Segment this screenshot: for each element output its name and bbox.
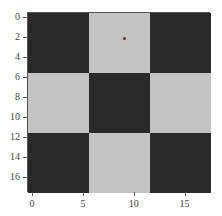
x-tick-label: 10 (124, 198, 144, 209)
y-tick-label: 4 (6, 51, 20, 62)
y-tick-label: 10 (6, 111, 20, 122)
heatmap-block (28, 133, 89, 193)
heatmap-block (150, 133, 211, 193)
y-tick-mark (23, 117, 27, 118)
y-tick-label: 8 (6, 91, 20, 102)
heatmap-block (89, 73, 150, 133)
heatmap-block (89, 13, 150, 73)
x-tick-label: 15 (175, 198, 195, 209)
heatmap-block (150, 13, 211, 73)
y-tick-mark (23, 97, 27, 98)
y-tick-mark (23, 37, 27, 38)
x-tick-mark (185, 192, 186, 196)
y-tick-label: 0 (6, 11, 20, 22)
y-tick-label: 6 (6, 71, 20, 82)
heatmap-block (89, 133, 150, 193)
x-tick-mark (134, 192, 135, 196)
y-tick-mark (23, 17, 27, 18)
y-tick-label: 2 (6, 31, 20, 42)
heatmap-block (28, 13, 89, 73)
heatmap-block (28, 73, 89, 133)
y-tick-mark (23, 77, 27, 78)
x-tick-label: 0 (22, 198, 42, 209)
y-tick-mark (23, 177, 27, 178)
y-tick-label: 14 (6, 151, 20, 162)
y-tick-mark (23, 57, 27, 58)
y-tick-mark (23, 157, 27, 158)
x-tick-label: 5 (73, 198, 93, 209)
heatmap-block (150, 73, 211, 133)
y-tick-label: 16 (6, 171, 20, 182)
x-tick-mark (83, 192, 84, 196)
y-tick-label: 12 (6, 131, 20, 142)
y-tick-mark (23, 137, 27, 138)
x-tick-mark (32, 192, 33, 196)
heatmap-plot (27, 12, 210, 192)
point-marker (123, 37, 126, 40)
